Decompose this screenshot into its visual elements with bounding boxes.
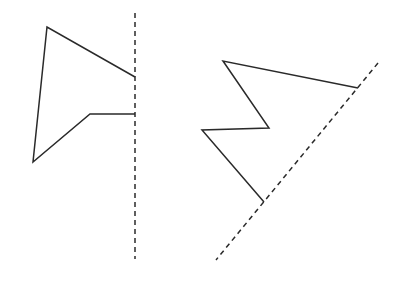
right-figure [202,61,378,260]
symmetry-diagram [0,0,405,291]
left-figure [33,13,135,259]
left-half-shape [33,27,135,162]
right-mirror-line [216,63,378,260]
diagram-svg [0,0,405,291]
right-half-shape [202,61,358,202]
